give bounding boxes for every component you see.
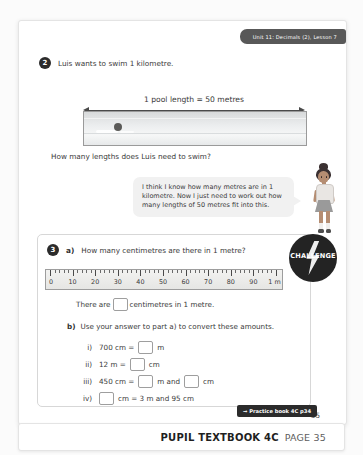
speech-bubble-text: I think I know how many metres are in 1 … [142, 183, 282, 209]
ruler-tick-major [50, 270, 51, 276]
challenge-label: CHALLENGE [289, 252, 337, 260]
item-numeral: iii) [77, 377, 92, 386]
book-page-label: PAGE 35 [285, 432, 326, 443]
ruler-tick-major [231, 270, 232, 276]
part-b-items: i)700 cm =mii)12 m =cmiii)450 cm =m andc… [77, 339, 292, 407]
question-2-prompt: Luis wants to swim 1 kilometre. [58, 59, 173, 68]
book-title: PUPIL TEXTBOOK 4C [161, 432, 279, 443]
item-text: cm [203, 377, 214, 386]
answer-box[interactable] [184, 375, 199, 388]
metre-ruler: 01020304050607080901 m [45, 269, 283, 290]
ruler-tick-minor [136, 270, 137, 273]
ruler-tick-minor [226, 270, 227, 273]
ruler-tick-major [140, 270, 141, 276]
ruler-tick-minor [127, 270, 128, 273]
ruler-label: 90 [249, 278, 257, 286]
ruler-tick-minor [172, 270, 173, 273]
ruler-tick-minor [213, 270, 214, 273]
ruler-tick-major [73, 270, 74, 276]
textbook-page-card: Unit 11: Decimals (2), Lesson 7 2 Luis w… [18, 20, 347, 425]
answer-box[interactable] [138, 341, 153, 354]
page-background: Unit 11: Decimals (2), Lesson 7 2 Luis w… [0, 0, 363, 455]
practice-book-badge[interactable]: → Practice book 4C p34 [237, 405, 317, 417]
part-b-item: i)700 cm =m [77, 339, 292, 356]
ruler-tick-minor [262, 270, 263, 273]
ruler-tick-minor [100, 270, 101, 273]
ruler-tick-minor [64, 270, 65, 273]
ruler-tick-minor [104, 270, 105, 273]
ruler-tick-minor [145, 270, 146, 273]
item-text: m and [157, 377, 180, 386]
ruler-tick-minor [249, 270, 250, 273]
footer-bar: PUPIL TEXTBOOK 4C PAGE 35 [18, 423, 345, 451]
question-2-header: 2 Luis wants to swim 1 kilometre. [39, 57, 329, 69]
ruler-tick-minor [217, 270, 218, 273]
ruler-tick-minor [222, 270, 223, 273]
ruler-tick-minor [258, 270, 259, 273]
ruler-tick-major [186, 270, 187, 276]
part-b-item: ii)12 m =cm [77, 356, 292, 373]
item-text: cm = 3 m and 95 cm [118, 394, 194, 403]
item-numeral: i) [77, 343, 92, 352]
challenge-badge: CHALLENGE [289, 234, 337, 282]
ruler-tick-minor [82, 270, 83, 273]
ruler-tick-minor [158, 270, 159, 273]
statement-before-text: There are [76, 300, 111, 309]
question-3-part-b-prompt: Use your answer to part a) to convert th… [80, 322, 274, 331]
ruler-tick-minor [177, 270, 178, 273]
question-3-part-b-header: b) Use your answer to part a) to convert… [67, 322, 274, 331]
item-text: cm [149, 360, 160, 369]
ruler-tick-minor [240, 270, 241, 273]
swimmer-icon [114, 123, 122, 131]
answer-box[interactable] [130, 358, 145, 371]
ruler-tick-minor [181, 270, 182, 273]
ruler-tick-minor [235, 270, 236, 273]
ruler-label: 70 [204, 278, 212, 286]
item-numeral: iv) [77, 394, 92, 403]
ruler-tick-major [118, 270, 119, 276]
ruler-tick-minor [68, 270, 69, 273]
ruler-label: 20 [91, 278, 99, 286]
ruler-tick-major [253, 270, 254, 276]
ruler-label: 50 [159, 278, 167, 286]
ruler-tick-minor [149, 270, 150, 273]
pool-length-label: 1 pool length = 50 metres [83, 95, 305, 104]
ruler-tick-minor [199, 270, 200, 273]
ruler-tick-major [95, 270, 96, 276]
ruler-tick-minor [86, 270, 87, 273]
item-numeral: ii) [77, 360, 92, 369]
ruler-tick-minor [122, 270, 123, 273]
item-text: m [157, 343, 164, 352]
part-b-item: iii)450 cm =m andcm [77, 373, 292, 390]
speech-bubble: I think I know how many metres are in 1 … [133, 177, 294, 217]
ruler-tick-minor [168, 270, 169, 273]
ruler-tick-minor [195, 270, 196, 273]
ruler-tick-major [163, 270, 164, 276]
ruler-tick-minor [55, 270, 56, 273]
answer-box[interactable] [99, 392, 114, 405]
swimming-pool-photo [83, 111, 307, 146]
item-text: 700 cm = [99, 343, 134, 352]
ruler-label: 0 [49, 278, 53, 286]
ruler-tick-minor [77, 270, 78, 273]
ruler-tick-minor [154, 270, 155, 273]
ruler-ticks [46, 270, 282, 277]
ruler-tick-minor [59, 270, 60, 273]
answer-box-part-a[interactable] [113, 298, 128, 311]
ruler-label: 60 [182, 278, 190, 286]
ruler-label: 1 m [268, 278, 280, 286]
ruler-tick-minor [131, 270, 132, 273]
ruler-label: 40 [136, 278, 144, 286]
question-2-ask: How many lengths does Luis need to swim? [51, 152, 211, 161]
ruler-tick-minor [109, 270, 110, 273]
ruler-tick-major [276, 270, 277, 276]
ruler-tick-minor [204, 270, 205, 273]
unit-lesson-label: Unit 11: Decimals (2), Lesson 7 [253, 34, 337, 40]
answer-box[interactable] [138, 375, 153, 388]
question-2-number: 2 [39, 57, 51, 69]
statement-after-text: centimetres in 1 metre. [130, 300, 215, 309]
item-text: 450 cm = [99, 377, 134, 386]
ruler-label: 80 [227, 278, 235, 286]
question-3-part-b-letter: b) [67, 322, 75, 331]
unit-lesson-tab: Unit 11: Decimals (2), Lesson 7 [240, 29, 346, 44]
